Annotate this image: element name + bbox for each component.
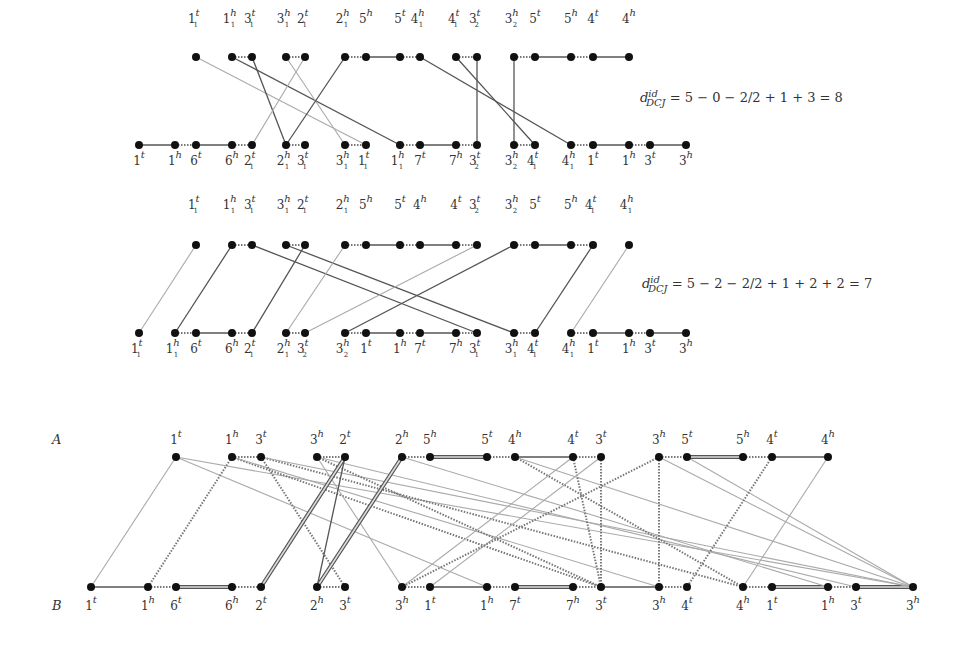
vertex-label: 5h [564, 10, 578, 25]
vertex-label: 6h [225, 597, 239, 612]
vertex-label: 7t [414, 340, 426, 355]
vertex-node [646, 329, 654, 337]
vertex-label: 3h [652, 597, 666, 612]
vertex-label: 3t2 [297, 340, 313, 358]
vertex-label: 4h1 [411, 10, 430, 28]
vertex-node [452, 329, 460, 337]
genome-a-label: A [52, 432, 61, 447]
vertex-node [416, 53, 424, 61]
vertex-node [625, 141, 633, 149]
vertex-node [824, 453, 832, 461]
vertex-label: 2h1 [336, 10, 355, 28]
vertex-label: 3h [310, 431, 324, 446]
vertex-node [144, 583, 152, 591]
vertex-node [257, 583, 265, 591]
vertex-node [362, 141, 370, 149]
vertex-node [567, 141, 575, 149]
vertex-label: 4h [736, 597, 750, 612]
vertex-label: 4h1 [620, 196, 639, 214]
vertex-label: 1t [133, 152, 145, 167]
dcj-formula-panel-1: didDCJ = 5 − 0 − 2/2 + 1 + 3 = 8 [640, 88, 843, 108]
vertex-label: 4t1 [585, 196, 601, 214]
vertex-label: 1t [360, 340, 372, 355]
extremity-edge [430, 457, 601, 587]
vertex-node [313, 453, 321, 461]
vertex-label: 4t1 [527, 152, 543, 170]
vertex-label: 1h [622, 152, 636, 167]
vertex-label: 7h [449, 340, 463, 355]
vertex-label: 3h [679, 152, 693, 167]
vertex-label: 3h2 [505, 196, 524, 214]
vertex-node [510, 241, 518, 249]
vertex-node [416, 329, 424, 337]
vertex-label: 5h [423, 431, 437, 446]
vertex-label: 3t [595, 431, 607, 446]
vertex-label: 2h [310, 597, 324, 612]
vertex-label: 1h [168, 152, 182, 167]
vertex-label: 3t [255, 431, 267, 446]
vertex-label: 4t [766, 431, 778, 446]
vertex-label: 4h1 [562, 152, 581, 170]
vertex-label: 4h1 [562, 340, 581, 358]
vertex-node [655, 583, 663, 591]
vertex-node [531, 53, 539, 61]
vertex-node [282, 241, 290, 249]
vertex-label: 3h1 [505, 340, 524, 358]
vertex-node [416, 241, 424, 249]
dcj-formula-panel-2: didDCJ = 5 − 2 − 2/2 + 1 + 2 + 2 = 7 [642, 274, 872, 294]
vertex-label: 3t1 [244, 196, 260, 214]
vertex-label: 4t1 [527, 340, 543, 358]
vertex-node [531, 241, 539, 249]
vertex-node [483, 583, 491, 591]
vertex-label: 3t [644, 340, 656, 355]
vertex-node [567, 241, 575, 249]
vertex-node [625, 241, 633, 249]
vertex-node [589, 53, 597, 61]
vertex-node [192, 329, 200, 337]
extremity-edge [232, 457, 659, 587]
vertex-label: 6h [225, 340, 239, 355]
vertex-label: 1h [225, 431, 239, 446]
vertex-label: 1h [821, 597, 835, 612]
vertex-label: 5t [529, 10, 541, 25]
vertex-node [192, 241, 200, 249]
vertex-label: 4t [450, 196, 462, 211]
vertex-node [597, 453, 605, 461]
vertex-label: 4h [508, 431, 522, 446]
vertex-node [683, 453, 691, 461]
vertex-node [341, 583, 349, 591]
vertex-node [452, 241, 460, 249]
vertex-node [341, 53, 349, 61]
extremity-edge [252, 245, 305, 333]
vertex-node [531, 141, 539, 149]
vertex-label: 1h [141, 597, 155, 612]
vertex-node [248, 241, 256, 249]
vertex-node [511, 453, 519, 461]
vertex-label: 3h1 [336, 152, 355, 170]
vertex-node [301, 141, 309, 149]
extremity-edge [305, 245, 477, 333]
vertex-node [172, 453, 180, 461]
vertex-node [739, 453, 747, 461]
vertex-node [510, 53, 518, 61]
extremity-edge [91, 457, 176, 587]
vertex-label: 4t [567, 431, 579, 446]
vertex-label: 1t [766, 597, 778, 612]
vertex-label: 1h1 [166, 340, 185, 358]
vertex-label: 4h [821, 431, 835, 446]
vertex-node [171, 329, 179, 337]
vertex-node [171, 141, 179, 149]
vertex-label: 6t [190, 340, 202, 355]
vertex-label: 2h1 [277, 152, 296, 170]
vertex-node [301, 53, 309, 61]
vertex-node [396, 329, 404, 337]
genome-b-label: B [52, 598, 62, 613]
vertex-label: 1h [393, 340, 407, 355]
vertex-node [646, 141, 654, 149]
vertex-label: 5t [681, 431, 693, 446]
formula-expression: = 5 − 0 − 2/2 + 1 + 3 = 8 [670, 90, 843, 105]
vertex-label: 4t [681, 597, 693, 612]
vertex-label: 2h1 [336, 196, 355, 214]
extremity-edge [252, 245, 477, 333]
vertex-label: 1t1 [358, 152, 374, 170]
